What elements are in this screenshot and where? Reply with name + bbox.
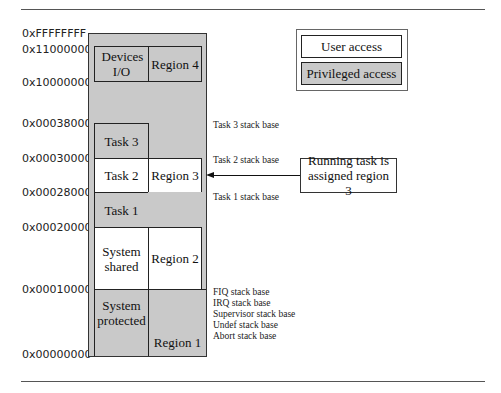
callout-text: Running task is assigned region 3: [308, 153, 390, 198]
note-task2-stack-base: Task 2 stack base: [213, 155, 279, 166]
region-2-label: Region 2: [151, 251, 198, 266]
task-1-label: Task 1: [104, 203, 138, 218]
devices-io-label: Devices I/O: [102, 49, 142, 79]
address-label-00010000: 0x00010000: [22, 284, 92, 296]
callout-running-task: Running task is assigned region 3: [300, 158, 397, 193]
address-label-11000000: 0x11000000: [22, 44, 92, 56]
arrow-head-icon: [206, 172, 214, 178]
address-label-ffffffff: 0xFFFFFFFF: [22, 28, 86, 40]
note-task3-stack-base: Task 3 stack base: [213, 120, 279, 131]
address-label-00038000: 0x00038000: [22, 118, 92, 130]
cell-system-protected: System protected: [94, 289, 149, 356]
cell-region-2: Region 2: [148, 227, 202, 290]
region-3-label: Region 3: [151, 168, 198, 183]
region-4-label: Region 4: [151, 57, 198, 72]
note-fiq-stack-base: FIQ stack base: [213, 287, 269, 298]
legend-privileged-access: Privileged access: [301, 62, 402, 85]
cell-region-4: Region 4: [148, 46, 202, 82]
cell-region-1: Region 1: [148, 289, 206, 356]
top-rule: [21, 9, 485, 10]
bottom-rule: [21, 381, 485, 382]
address-label-00000000: 0x00000000: [22, 349, 92, 361]
arrow-line: [212, 175, 300, 176]
legend-privileged-access-label: Privileged access: [307, 66, 397, 82]
note-undef-stack-base: Undef stack base: [213, 320, 278, 331]
address-label-00028000: 0x00028000: [22, 187, 92, 199]
legend-user-access-label: User access: [321, 39, 382, 55]
cell-task-3: Task 3: [94, 123, 149, 159]
address-label-10000000: 0x10000000: [22, 77, 92, 89]
cell-task-1-right: [148, 192, 202, 228]
note-irq-stack-base: IRQ stack base: [213, 298, 271, 309]
cell-devices-io: Devices I/O: [94, 46, 149, 82]
legend: User access Privileged access: [296, 29, 408, 91]
legend-user-access: User access: [301, 35, 402, 58]
cell-task-1: Task 1: [94, 192, 149, 228]
note-abort-stack-base: Abort stack base: [213, 331, 276, 342]
address-label-00030000: 0x00030000: [22, 153, 92, 165]
cell-system-shared: System shared: [94, 227, 149, 290]
address-label-00020000: 0x00020000: [22, 222, 92, 234]
task-2-label: Task 2: [104, 168, 138, 183]
system-protected-label: System protected: [96, 298, 148, 328]
cell-region-3: Region 3: [148, 158, 202, 193]
note-task1-stack-base: Task 1 stack base: [213, 192, 279, 203]
cell-task-2: Task 2: [94, 158, 149, 193]
system-shared-label: System shared: [100, 244, 144, 274]
task-3-label: Task 3: [104, 134, 138, 149]
note-supervisor-stack-base: Supervisor stack base: [213, 309, 295, 320]
region-1-label: Region 1: [154, 335, 201, 350]
